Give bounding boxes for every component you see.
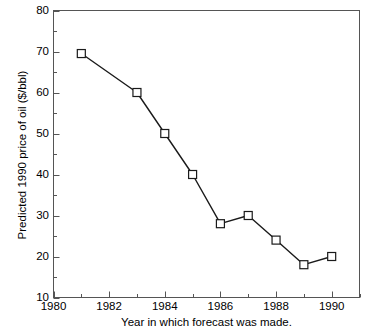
x-axis-title: Year in which forecast was made. bbox=[53, 316, 360, 328]
x-tick-label: 1988 bbox=[254, 301, 298, 313]
oil-price-forecast-chart: 1020304050607080 19801982198419861988199… bbox=[0, 0, 368, 335]
chart-canvas bbox=[0, 0, 368, 335]
data-point-marker bbox=[244, 212, 252, 220]
x-tick-label: 1980 bbox=[32, 301, 76, 313]
data-point-marker bbox=[133, 89, 141, 97]
x-tick-label: 1984 bbox=[143, 301, 187, 313]
plot-frame bbox=[54, 11, 360, 298]
x-tick-label: 1982 bbox=[87, 301, 131, 313]
data-point-marker bbox=[216, 220, 224, 228]
data-point-marker bbox=[300, 261, 308, 269]
x-axis-tick-labels: 198019821984198619881990 bbox=[0, 301, 368, 317]
data-point-marker bbox=[328, 253, 336, 261]
x-tick-label: 1986 bbox=[198, 301, 242, 313]
y-axis-title: Predicted 1990 price of oil ($/bbl) bbox=[14, 5, 30, 305]
data-point-marker bbox=[161, 130, 169, 138]
data-point-marker bbox=[77, 50, 85, 58]
data-point-marker bbox=[189, 171, 197, 179]
data-point-marker bbox=[272, 236, 280, 244]
x-tick-label: 1990 bbox=[310, 301, 354, 313]
